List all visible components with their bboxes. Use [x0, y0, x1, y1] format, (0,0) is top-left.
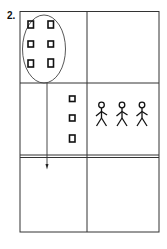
grid-diagram: [0, 0, 167, 249]
square-icon: [28, 60, 34, 67]
down-arrow: [46, 83, 49, 170]
oval-shape: [23, 15, 66, 83]
arrowhead-icon: [46, 164, 49, 170]
square-icon: [48, 59, 54, 67]
square-icon: [70, 115, 76, 121]
stick-figures: [96, 102, 148, 126]
stick-figure-icon: [96, 102, 107, 126]
square-cluster: [28, 21, 54, 67]
square-icon: [28, 41, 34, 47]
square-icon: [48, 41, 54, 47]
square-icon: [70, 96, 76, 102]
grid-lines: [20, 12, 159, 233]
stick-figure-icon: [117, 102, 128, 126]
outer-frame: [20, 12, 159, 233]
oval-group: [23, 15, 66, 83]
square-column: [70, 96, 76, 142]
square-icon: [48, 21, 54, 28]
square-icon: [70, 135, 76, 142]
stick-figure-icon: [137, 102, 148, 126]
